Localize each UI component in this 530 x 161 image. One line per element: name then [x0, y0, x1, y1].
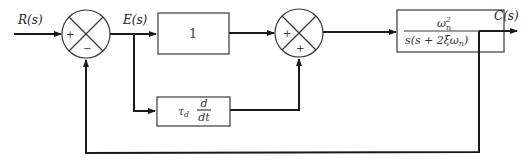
error-label: E(s) [122, 13, 148, 27]
derivative-block: τd d dt [157, 97, 230, 126]
summing-junction-2: + + [275, 9, 323, 57]
plus-sign: + [66, 29, 74, 40]
proportional-label: 1 [189, 27, 197, 41]
plus-sign-left: + [283, 28, 291, 39]
plant-denominator: s(s + 2ξωn) [405, 34, 468, 48]
derivative-output-arrow [230, 59, 299, 110]
derivative-branch-arrow [134, 34, 155, 111]
input-label: R(s) [17, 13, 43, 27]
derivative-denominator: dt [198, 111, 210, 124]
output-label: C(s) [494, 9, 519, 23]
plus-sign-bottom: + [296, 43, 304, 54]
summing-junction-1: + − [62, 10, 110, 58]
block-diagram: R(s) + − E(s) 1 τd d dt + + [0, 0, 530, 161]
error-signal: E(s) [110, 13, 156, 111]
minus-sign: − [83, 43, 91, 54]
plant-numerator: ω2n [437, 15, 451, 32]
input-signal: R(s) [14, 13, 61, 34]
proportional-block: 1 [158, 13, 229, 54]
derivative-numerator: d [200, 97, 207, 110]
